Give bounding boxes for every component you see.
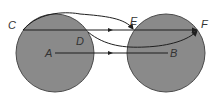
mid-arrow-c-f-icon xyxy=(108,28,113,32)
label-f: F xyxy=(201,18,209,30)
mid-arrow-a-b-icon xyxy=(108,51,113,55)
label-c: C xyxy=(8,19,16,31)
label-a: A xyxy=(44,47,52,59)
label-d: D xyxy=(76,35,84,47)
label-b: B xyxy=(170,47,177,59)
two-circles-diagram: C D A E F B xyxy=(0,0,216,103)
label-e: E xyxy=(130,15,138,27)
